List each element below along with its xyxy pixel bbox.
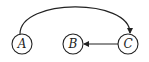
node-b-label: B xyxy=(68,37,78,51)
edge-a-to-c xyxy=(20,7,130,34)
node-b: B xyxy=(63,34,83,54)
node-a: A xyxy=(12,34,32,54)
node-c-label: C xyxy=(123,37,132,51)
node-a-label: A xyxy=(17,37,27,51)
graph-diagram: A B C xyxy=(0,0,149,62)
node-c: C xyxy=(118,34,138,54)
